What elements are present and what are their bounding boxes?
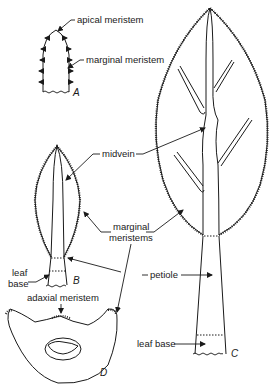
label-adaxial-meristem: adaxial meristem	[27, 292, 99, 303]
young-leaf-blade	[35, 146, 80, 257]
panel-letter-b: B	[73, 275, 80, 286]
panel-d: D adaxial meristem	[6, 292, 117, 383]
label-apical-meristem: apical meristem	[77, 14, 144, 25]
label-marginal-meristems-2: meristems	[109, 232, 153, 243]
marginal-meristem-arrows	[39, 38, 73, 82]
lateral-vein	[214, 60, 234, 92]
label-marginal-meristems-1: marginal	[113, 221, 149, 232]
leaf-development-diagram: apical meristem marginal meristem A B le…	[0, 0, 274, 391]
panel-b: B leaf base	[8, 146, 80, 289]
label-marginal-meristem: marginal meristem	[86, 54, 164, 65]
lateral-vein	[178, 66, 205, 114]
label-petiole: petiole	[150, 269, 178, 280]
lateral-vein	[218, 118, 252, 166]
vascular-trace-inner	[48, 341, 78, 354]
lateral-vein	[174, 152, 204, 192]
panel-c: C	[156, 8, 268, 359]
panel-letter-c: C	[231, 348, 239, 359]
panel-letter-d: D	[100, 367, 107, 378]
label-leaf-base-b-1: leaf	[12, 267, 28, 278]
primordium-base-cut	[43, 91, 69, 93]
label-midvein: midvein	[102, 148, 135, 159]
petiole-callout: petiole	[142, 269, 212, 280]
panel-a: apical meristem marginal meristem A	[39, 14, 164, 98]
leaf-base-c-callout: leaf base	[137, 338, 205, 349]
mature-midvein	[202, 8, 210, 235]
young-midvein	[51, 146, 64, 257]
primordium-outline	[43, 30, 69, 92]
label-leaf-base-b-2: base	[8, 278, 29, 289]
panel-letter-a: A	[72, 87, 80, 98]
midvein-callout: midvein	[66, 128, 205, 180]
label-leaf-base-c: leaf base	[137, 338, 176, 349]
